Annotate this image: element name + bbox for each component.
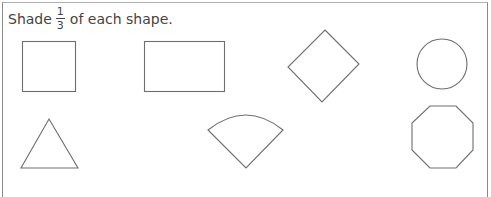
triangle-shape[interactable] bbox=[21, 119, 78, 168]
shapes-canvas bbox=[0, 0, 491, 197]
square-shape[interactable] bbox=[23, 42, 76, 92]
octagon-shape[interactable] bbox=[412, 106, 473, 168]
circle-shape[interactable] bbox=[417, 39, 467, 89]
rectangle-shape[interactable] bbox=[145, 42, 225, 92]
circle-sector-shape[interactable] bbox=[208, 115, 283, 168]
diamond-shape[interactable] bbox=[288, 30, 359, 102]
